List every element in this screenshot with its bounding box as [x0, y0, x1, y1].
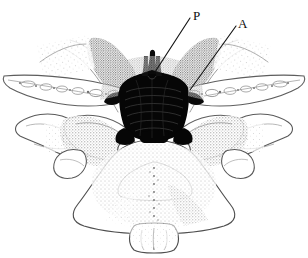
label-a: A [238, 16, 248, 31]
label-p: P [193, 8, 200, 23]
dark-mass-foot-center [140, 131, 169, 144]
anatomical-figure: P A [0, 0, 308, 258]
spinous-process [128, 222, 180, 256]
vertebra-illustration-canvas: P A [0, 0, 308, 258]
